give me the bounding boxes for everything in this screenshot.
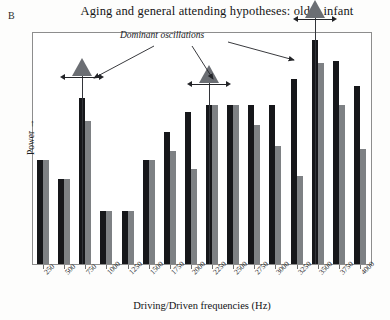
panel-label: B xyxy=(8,10,15,21)
marker-triangle-icon xyxy=(305,0,325,18)
marker-span-arrow xyxy=(64,77,100,78)
marker-stem xyxy=(315,18,316,264)
bar-driven-1500 xyxy=(149,160,155,264)
bar-driven-3750 xyxy=(339,105,345,264)
bar-driven-4000 xyxy=(360,149,366,265)
bar-driven-2750 xyxy=(254,125,260,264)
y-axis-label: Power → xyxy=(26,102,36,172)
bar-driven-2250 xyxy=(212,105,218,264)
bar-driven-2500 xyxy=(233,105,239,264)
marker-triangle-icon xyxy=(199,65,219,83)
x-axis-label: Driving/Driven frequencies (Hz) xyxy=(32,300,372,311)
plot-area xyxy=(33,33,371,264)
bar-driven-500 xyxy=(64,179,70,264)
bar-driven-250 xyxy=(43,160,49,264)
bar-driven-750 xyxy=(85,121,91,264)
marker-span-arrow xyxy=(191,84,227,85)
marker-span-arrow xyxy=(297,19,333,20)
bar-driven-3250 xyxy=(297,176,303,264)
marker-triangle-icon xyxy=(72,58,92,76)
marker-stem xyxy=(82,76,83,264)
bar-driven-1250 xyxy=(128,211,134,264)
marker-stem xyxy=(209,83,210,264)
bar-driven-1750 xyxy=(170,151,176,264)
bar-driven-1000 xyxy=(106,211,112,264)
annotation-label: Dominant oscillations xyxy=(120,30,204,40)
chart-figure: B Aging and general attending hypotheses… xyxy=(0,0,390,320)
x-axis-tick-labels: 2505007501000125015001750200022502500275… xyxy=(33,270,371,300)
bar-driven-3000 xyxy=(275,146,281,264)
bar-driven-2000 xyxy=(191,169,197,264)
bar-driven-3500 xyxy=(318,63,324,264)
